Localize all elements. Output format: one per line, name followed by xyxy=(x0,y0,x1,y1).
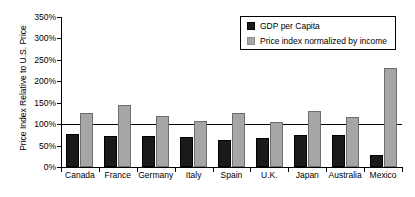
bar-canada-gdp-per-capita xyxy=(66,134,79,167)
y-axis-tick-label: 300% xyxy=(34,33,56,43)
legend-item-price-index: Price index normalized by income xyxy=(247,34,387,48)
legend-swatch-gdp-per-capita xyxy=(247,22,255,30)
y-axis-tick-label: 200% xyxy=(34,76,56,86)
bar-mexico-gdp-per-capita xyxy=(370,155,383,167)
bar-japan-gdp-per-capita xyxy=(294,135,307,167)
y-axis-tick-label: 0% xyxy=(44,162,56,172)
bar-germany-gdp-per-capita xyxy=(142,136,155,167)
bar-spain-gdp-per-capita xyxy=(218,140,231,167)
x-axis-label-mexico: Mexico xyxy=(364,170,402,180)
x-axis-line xyxy=(61,167,402,168)
x-axis-tick xyxy=(402,167,403,172)
y-axis-tick-label: 100% xyxy=(34,119,56,129)
y-axis-tick-label: 350% xyxy=(34,12,56,22)
x-axis-label-germany: Germany xyxy=(137,170,175,180)
bar-australia-gdp-per-capita xyxy=(332,135,345,167)
x-axis-labels: CanadaFranceGermanyItalySpainU.K.JapanAu… xyxy=(61,170,402,186)
bar-france-price-index xyxy=(118,105,131,167)
legend-item-gdp-per-capita: GDP per Capita xyxy=(247,19,320,33)
y-axis-tick-label: 150% xyxy=(34,98,56,108)
bar-spain-price-index xyxy=(232,113,245,167)
legend-swatch-price-index xyxy=(247,37,255,45)
bar-mexico-price-index xyxy=(384,68,397,167)
bar-uk-price-index xyxy=(270,122,283,167)
y-axis-title: Price Index Relative to U.S. Price xyxy=(18,8,28,168)
y-axis-tick-label: 250% xyxy=(34,55,56,65)
chart-legend: GDP per Capita Price index normalized by… xyxy=(240,16,396,50)
x-axis-label-italy: Italy xyxy=(175,170,213,180)
x-axis-label-france: France xyxy=(99,170,137,180)
legend-label-price-index: Price index normalized by income xyxy=(260,36,387,46)
bar-germany-price-index xyxy=(156,116,169,167)
x-axis-label-uk: U.K. xyxy=(250,170,288,180)
bar-italy-gdp-per-capita xyxy=(180,137,193,167)
price-index-bar-chart: Price Index Relative to U.S. Price 0%50%… xyxy=(0,0,415,197)
x-axis-label-spain: Spain xyxy=(213,170,251,180)
bar-italy-price-index xyxy=(194,121,207,167)
x-axis-label-australia: Australia xyxy=(326,170,364,180)
bar-france-gdp-per-capita xyxy=(104,136,117,167)
x-axis-label-canada: Canada xyxy=(61,170,99,180)
legend-label-gdp-per-capita: GDP per Capita xyxy=(260,21,320,31)
bar-uk-gdp-per-capita xyxy=(256,138,269,167)
y-axis-tick-label: 50% xyxy=(39,141,56,151)
bar-australia-price-index xyxy=(346,117,359,167)
x-axis-label-japan: Japan xyxy=(288,170,326,180)
bar-japan-price-index xyxy=(308,111,321,167)
bar-canada-price-index xyxy=(80,113,93,167)
